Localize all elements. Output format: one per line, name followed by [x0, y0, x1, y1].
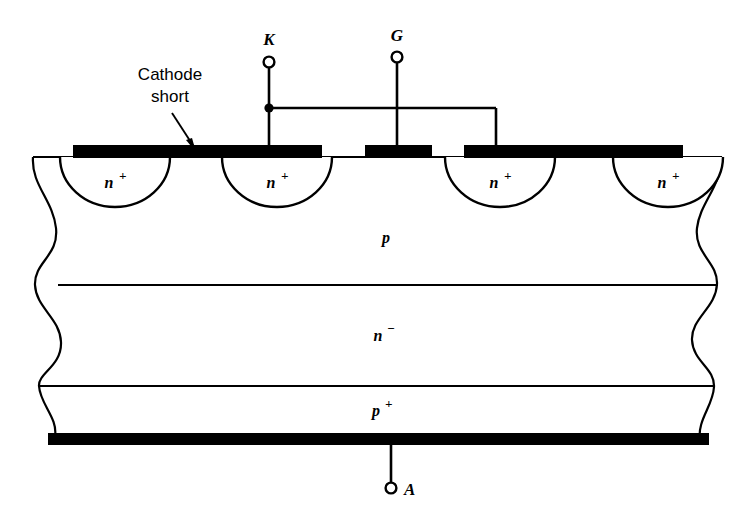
n-drift-label-base: n [374, 327, 383, 344]
anode-wiring: A [386, 444, 416, 499]
n-drift-label: n − [374, 321, 395, 344]
thyristor-cross-section-diagram: K G A Cathode short n + n [0, 0, 754, 517]
well-4-label-base: n [658, 174, 667, 191]
well-3-label-superscript: + [504, 168, 511, 183]
n-drift-label-superscript: − [387, 321, 395, 336]
cathode-terminal-node[interactable] [264, 57, 275, 68]
device-cross-section-figure: K G A Cathode short n + n [0, 0, 754, 517]
gate-terminal-label: G [391, 26, 404, 45]
cathode-terminal-label: K [262, 30, 276, 49]
p-base-label-base: p [380, 229, 390, 247]
well-3-outline [445, 157, 555, 207]
bottom-metal-contact [48, 433, 709, 445]
p-emitter-label-superscript: + [385, 396, 392, 411]
well-4-label-superscript: + [672, 168, 679, 183]
metal-anode[interactable] [48, 433, 709, 445]
cathode-short-label-line2: short [151, 87, 189, 106]
region-labels: p n − p + [370, 229, 395, 420]
cathode-short-label-line1: Cathode [138, 65, 202, 84]
p-emitter-label: p + [370, 396, 392, 420]
top-metal-contacts [73, 145, 683, 158]
well-3-label-base: n [490, 174, 499, 191]
well-1-outline [60, 157, 170, 207]
metal-cathode-left[interactable] [73, 145, 322, 158]
metal-gate[interactable] [365, 145, 432, 158]
n-plus-wells [60, 157, 723, 207]
well-2-label-base: n [267, 174, 276, 191]
p-base-label: p [380, 229, 390, 247]
well-1-label-base: n [105, 174, 114, 191]
gate-terminal-node[interactable] [392, 52, 403, 63]
cathode-short-annotation: Cathode short [138, 65, 202, 152]
well-1-label-superscript: + [119, 168, 126, 183]
gate-wiring: G [391, 26, 404, 152]
anode-terminal-label: A [403, 480, 415, 499]
well-labels: n + n + n + n + [105, 168, 680, 191]
anode-terminal-node[interactable] [386, 483, 397, 494]
well-2-label-superscript: + [281, 168, 288, 183]
cathode-wiring: K [262, 30, 496, 152]
cathode-junction-dot [264, 103, 273, 112]
p-emitter-label-base: p [370, 402, 380, 420]
well-2-outline [222, 157, 332, 207]
